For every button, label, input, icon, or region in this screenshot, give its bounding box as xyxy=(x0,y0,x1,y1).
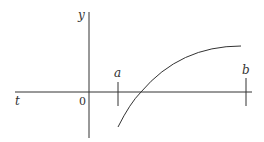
y-axis-label: y xyxy=(78,9,85,21)
diagram-canvas xyxy=(0,0,264,142)
t-axis-label: t xyxy=(15,95,20,107)
b-label: b xyxy=(242,64,250,76)
origin-label: 0 xyxy=(79,96,86,107)
a-label: a xyxy=(114,67,121,79)
function-curve xyxy=(118,46,241,127)
